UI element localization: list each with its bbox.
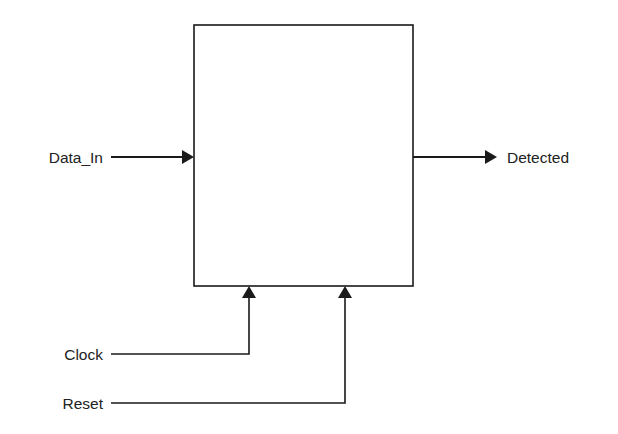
detector-block (194, 25, 413, 286)
clock-label: Clock (64, 346, 103, 363)
reset-label: Reset (63, 395, 104, 412)
clock-signal: Clock (64, 286, 256, 363)
arrowhead-icon (242, 286, 256, 298)
data-in-label: Data_In (49, 149, 103, 166)
reset-line (111, 296, 345, 403)
arrowhead-icon (485, 150, 497, 164)
detected-label: Detected (507, 149, 569, 166)
arrowhead-icon (182, 150, 194, 164)
detected-signal: Detected (413, 149, 569, 166)
reset-signal: Reset (63, 286, 353, 412)
arrowhead-icon (338, 286, 352, 298)
data-in-signal: Data_In (49, 149, 194, 166)
block-diagram: Data_In Detected Clock Reset (0, 0, 618, 434)
clock-line (111, 296, 249, 354)
